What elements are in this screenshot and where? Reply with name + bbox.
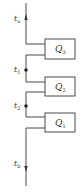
label-ta: ta bbox=[14, 14, 20, 24]
label-q3: Q3 bbox=[55, 44, 66, 55]
label-t1: t1 bbox=[14, 65, 20, 75]
node-t2-dot bbox=[24, 104, 28, 108]
label-q1: Q1 bbox=[55, 118, 66, 129]
label-q2: Q2 bbox=[55, 82, 66, 93]
label-tb: tb bbox=[14, 159, 20, 169]
label-t2: t2 bbox=[14, 101, 20, 111]
arrow-down-icon bbox=[24, 166, 27, 172]
node-t1-dot bbox=[24, 68, 28, 72]
arrow-up-icon bbox=[24, 14, 27, 20]
heat-flow-diagram: ta t1 t2 tb Q3 Q2 Q1 bbox=[0, 0, 83, 193]
